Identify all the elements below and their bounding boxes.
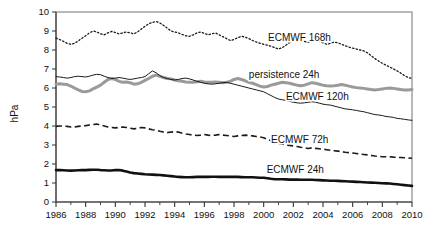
y-tick-label-1: 1 xyxy=(44,177,49,188)
chart-root: hPa 012345678910198619881990199219941996… xyxy=(0,0,428,229)
y-tick-label-6: 6 xyxy=(44,82,49,93)
x-tick-label-2002: 2002 xyxy=(283,209,304,220)
y-tick-label-2: 2 xyxy=(44,158,49,169)
y-tick-label-7: 7 xyxy=(44,63,49,74)
x-tick-label-2004: 2004 xyxy=(312,209,333,220)
x-tick-label-1986: 1986 xyxy=(45,209,66,220)
y-tick-label-8: 8 xyxy=(44,44,49,55)
x-tick-label-1996: 1996 xyxy=(194,209,215,220)
series-line-ecmwf-24h xyxy=(56,170,412,186)
x-tick-label-1990: 1990 xyxy=(105,209,126,220)
x-tick-label-2010: 2010 xyxy=(401,209,422,220)
x-tick-label-1992: 1992 xyxy=(134,209,155,220)
x-tick-label-1998: 1998 xyxy=(223,209,244,220)
y-tick-label-9: 9 xyxy=(44,25,49,36)
plot-frame xyxy=(56,12,412,202)
y-tick-label-0: 0 xyxy=(44,196,49,207)
y-tick-label-4: 4 xyxy=(44,120,49,131)
x-tick-label-2000: 2000 xyxy=(253,209,274,220)
y-tick-label-5: 5 xyxy=(44,101,49,112)
line-chart: 0123456789101986198819901992199419961998… xyxy=(0,0,428,229)
series-label-ecmwf-168h: ECMWF 168h xyxy=(268,32,331,43)
y-tick-label-3: 3 xyxy=(44,139,49,150)
series-line-ecmwf-168h xyxy=(56,22,412,79)
series-label-ecmwf-24h: ECMWF 24h xyxy=(267,164,324,175)
x-tick-label-1994: 1994 xyxy=(164,209,185,220)
x-tick-label-2008: 2008 xyxy=(372,209,393,220)
series-label-ecmwf-72h: ECMWF 72h xyxy=(271,134,328,145)
series-line-ecmwf-72h xyxy=(56,124,412,158)
series-label-ecmwf-120h: ECMWF 120h xyxy=(286,91,349,102)
x-tick-label-1988: 1988 xyxy=(75,209,96,220)
series-label-persistence-24h: persistence 24h xyxy=(249,69,320,80)
x-tick-label-2006: 2006 xyxy=(342,209,363,220)
y-tick-label-10: 10 xyxy=(38,6,49,17)
